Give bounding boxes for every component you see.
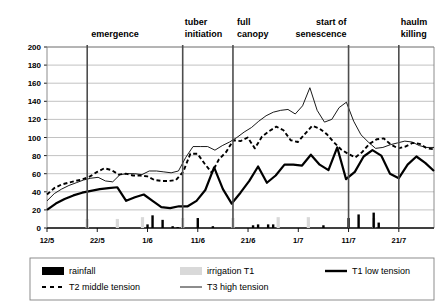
event-label: tuber (185, 17, 208, 27)
irrigation-bars (86, 217, 376, 228)
y-tick-label: 120 (28, 115, 42, 124)
gridlines: 020406080100120140160180200 (28, 43, 434, 233)
y-tick-label: 100 (28, 134, 42, 143)
legend-label: rainfall (69, 266, 96, 276)
event-label: haulm (401, 17, 428, 27)
chart-canvas: 02040608010012014016018020012/522/51/611… (0, 0, 443, 308)
event-label: senescence (296, 29, 347, 39)
irrigation-bars-bar (141, 217, 144, 228)
x-tick-label: 21/7 (392, 236, 407, 245)
series-line (47, 88, 434, 201)
y-tick-label: 60 (32, 170, 41, 179)
irrigation-bars-bar (307, 217, 310, 228)
rainfall-bars-bar (272, 224, 274, 228)
rainfall-bars-bar (267, 224, 269, 228)
y-tick-label: 0 (37, 224, 42, 233)
event-label: emergence (91, 29, 139, 39)
legend-label: T2 middle tension (69, 282, 140, 292)
x-tick-label: 11/6 (191, 236, 205, 245)
series-line (47, 126, 434, 195)
legend-item: rainfall (42, 266, 96, 276)
chart-figure: tension in kPa, rainfall and irrigation … (0, 0, 443, 308)
rainfall-bars-bar (146, 224, 148, 228)
y-tick-label: 200 (28, 43, 42, 52)
legend: rainfallirrigation T1T1 low tensionT2 mi… (30, 258, 434, 300)
x-tick-label: 1/6 (142, 236, 152, 245)
y-tick-label: 140 (28, 97, 42, 106)
series-line (47, 147, 434, 209)
legend-item: T2 middle tension (42, 282, 140, 292)
x-tick-label: 1/7 (293, 236, 303, 245)
event-label: full (237, 17, 251, 27)
legend-label: T1 low tension (352, 266, 410, 276)
legend-box (30, 258, 434, 300)
irrigation-bars-bar (116, 219, 119, 228)
x-tick-label: 11/7 (341, 236, 355, 245)
y-tick-label: 40 (32, 188, 41, 197)
irrigation-bars-bar (277, 217, 280, 228)
y-tick-label: 160 (28, 79, 42, 88)
event-label: initiation (185, 29, 223, 39)
legend-swatch (42, 267, 64, 275)
y-tick-label: 180 (28, 61, 42, 70)
event-label: killing (401, 29, 427, 39)
rainfall-bars-bar (212, 226, 214, 228)
rainfall-bars-bar (257, 224, 259, 228)
legend-item: irrigation T1 (180, 266, 254, 276)
x-axis: 12/522/51/611/621/61/711/721/7 (40, 228, 406, 245)
rainfall-bars-bar (322, 225, 324, 228)
legend-item: T3 high tension (180, 282, 269, 292)
x-tick-label: 22/5 (90, 236, 105, 245)
legend-item: T1 low tension (325, 266, 410, 276)
legend-label: T3 high tension (207, 282, 269, 292)
rainfall-bars-bar (176, 227, 178, 228)
legend-label: irrigation T1 (207, 266, 254, 276)
rainfall-bars-bar (252, 225, 254, 228)
x-tick-label: 12/5 (40, 236, 55, 245)
rainfall-bars-bar (171, 226, 173, 228)
y-tick-label: 20 (32, 206, 41, 215)
event-label: start of (316, 17, 348, 27)
y-tick-label: 80 (32, 152, 41, 161)
event-label: canopy (237, 29, 269, 39)
rainfall-bars-bar (357, 214, 359, 228)
legend-swatch (180, 267, 202, 275)
rainfall-bars-bar (151, 215, 153, 228)
x-tick-label: 21/6 (241, 236, 256, 245)
rainfall-bars-bar (161, 220, 163, 228)
rainfall-bars-bar (197, 218, 199, 228)
rainfall-bars-bar (378, 223, 380, 228)
rainfall-bars-bar (372, 213, 374, 228)
